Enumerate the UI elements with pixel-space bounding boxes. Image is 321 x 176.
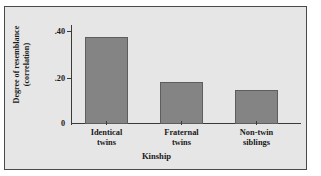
- y-tick-label-40: .40: [35, 27, 65, 36]
- x-tick-mark-non-twin-siblings: [256, 121, 257, 125]
- x-tick-label-non-twin-siblings: Non-twin siblings: [216, 128, 297, 148]
- y-tick-label-0: 0: [35, 119, 65, 128]
- x-tick-label-identical-twins: Identical twins: [66, 128, 147, 148]
- chart-figure: Degree of resemblance (correlation) .40 …: [4, 6, 307, 170]
- y-tick-mark-20: [67, 78, 72, 79]
- x-axis-title: Kinship: [5, 151, 308, 161]
- y-axis-title: Degree of resemblance (correlation): [12, 10, 31, 120]
- x-tick-label-identical-twins-line1: Identical: [66, 128, 147, 138]
- bar-identical-twins: [85, 37, 128, 124]
- y-axis-title-line2: (correlation): [22, 10, 32, 120]
- x-tick-label-non-twin-siblings-line2: siblings: [216, 138, 297, 148]
- x-tick-mark-identical-twins: [106, 121, 107, 125]
- x-tick-label-fraternal-twins-line1: Fraternal: [141, 128, 222, 138]
- x-tick-label-identical-twins-line2: twins: [66, 138, 147, 148]
- y-axis-line: [71, 25, 72, 125]
- x-tick-mark-fraternal-twins: [181, 121, 182, 125]
- x-tick-label-fraternal-twins: Fraternal twins: [141, 128, 222, 148]
- x-tick-label-non-twin-siblings-line1: Non-twin: [216, 128, 297, 138]
- bar-fraternal-twins: [160, 82, 203, 124]
- bar-non-twin-siblings: [235, 90, 278, 124]
- x-tick-label-fraternal-twins-line2: twins: [141, 138, 222, 148]
- y-tick-label-20: .20: [35, 74, 65, 83]
- y-tick-mark-40: [67, 31, 72, 32]
- y-axis-title-line1: Degree of resemblance: [12, 10, 22, 120]
- bar-chart-plot: Degree of resemblance (correlation) .40 …: [5, 7, 308, 171]
